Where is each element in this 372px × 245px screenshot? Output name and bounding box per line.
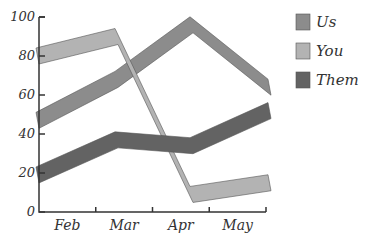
legend-label-you: You: [316, 42, 343, 60]
series-ribbons: [36, 17, 271, 203]
x-category-label: Feb: [53, 217, 80, 233]
y-tick-label: 100: [10, 9, 35, 24]
y-tick-label: 40: [17, 126, 35, 141]
x-category-label: Mar: [108, 217, 140, 233]
line-chart: 020406080100FebMarAprMay UsYouThem: [0, 0, 372, 245]
legend-swatch-you: [296, 43, 310, 59]
legend-label-them: Them: [316, 71, 359, 89]
legend-swatch-us: [296, 14, 310, 30]
x-category-label: May: [221, 217, 254, 233]
y-tick-label: 80: [18, 48, 35, 63]
legend-swatch-them: [296, 72, 310, 88]
y-tick-label: 20: [17, 165, 35, 180]
legend: UsYouThem: [296, 13, 359, 89]
x-category-label: Apr: [166, 217, 195, 233]
y-tick-label: 0: [27, 204, 35, 219]
y-tick-label: 60: [18, 87, 35, 102]
legend-label-us: Us: [316, 13, 337, 31]
